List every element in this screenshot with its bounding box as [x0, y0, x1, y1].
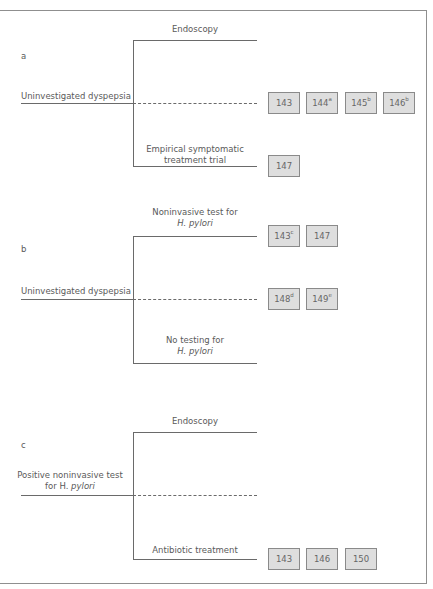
reference-box: 143	[268, 548, 300, 570]
reference-box: 146b	[383, 92, 415, 114]
bottom-branch-label-line2: H. pylori	[133, 346, 257, 357]
bottom-branch-label-line1: Empirical symptomatic	[133, 144, 257, 155]
top-branch-label-line1: Noninvasive test for	[133, 207, 257, 218]
reference-box: 149e	[306, 288, 338, 310]
bottom-branch-label-line2: treatment trial	[133, 155, 257, 166]
reference-box: 150	[345, 548, 377, 570]
panel-label: c	[21, 440, 26, 451]
reference-box: 147	[306, 225, 338, 247]
root-label: Uninvestigated dyspepsia	[21, 286, 131, 297]
root-line	[21, 495, 133, 496]
root-line	[21, 299, 133, 300]
bottom-branch-line	[133, 559, 257, 560]
middle-branch-dashed-line	[133, 495, 257, 496]
bottom-branch-line	[133, 363, 257, 364]
top-branch-label-line2: H. pylori	[133, 218, 257, 229]
frame-border-right	[426, 10, 427, 584]
frame-border-bottom	[0, 583, 427, 584]
middle-branch-dashed-line	[133, 299, 257, 300]
root-label-line2: for H. pylori	[14, 481, 126, 492]
root-line	[21, 103, 133, 104]
reference-box: 144a	[306, 92, 338, 114]
frame-border-top	[0, 10, 427, 11]
bottom-branch-label: Antibiotic treatment	[133, 545, 257, 556]
top-branch-line	[133, 40, 257, 41]
reference-box: 145b	[345, 92, 377, 114]
top-branch-line	[133, 236, 257, 237]
reference-box: 143	[268, 92, 300, 114]
bottom-branch-label-line1: No testing for	[133, 335, 257, 346]
reference-box: 147	[268, 155, 300, 177]
reference-box: 146	[306, 548, 338, 570]
root-label: Uninvestigated dyspepsia	[21, 91, 131, 102]
middle-branch-dashed-line	[133, 103, 257, 104]
top-branch-label: Endoscopy	[133, 24, 257, 35]
reference-box: 148d	[268, 288, 300, 310]
bottom-branch-line	[133, 166, 257, 167]
panel-label: a	[21, 51, 26, 62]
reference-box: 143c	[268, 225, 300, 247]
panel-label: b	[21, 244, 26, 255]
top-branch-label: Endoscopy	[133, 416, 257, 427]
root-label-line1: Positive noninvasive test	[14, 470, 126, 481]
top-branch-line	[133, 432, 257, 433]
